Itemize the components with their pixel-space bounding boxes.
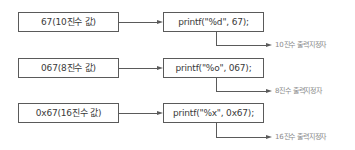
decimal-code: printf("%d", 67);	[178, 17, 249, 27]
arrow-right-icon	[266, 43, 272, 47]
hex-value-box: 0x67(16진수 값)	[18, 103, 119, 123]
decimal-value-label: 67(10진수 값)	[41, 17, 96, 27]
hex-connector-line	[119, 113, 157, 114]
octal-value-box: 067(8진수 값)	[18, 58, 119, 78]
decimal-specifier-note: 10진수 출력지정자	[275, 41, 326, 50]
octal-note-drop-line	[216, 78, 217, 92]
decimal-value-box: 67(10진수 값)	[18, 12, 119, 32]
decimal-connector-line	[119, 22, 157, 23]
octal-note-line	[216, 91, 266, 92]
hex-code-box: printf("%x", 0x67);	[163, 103, 264, 123]
decimal-code-box: printf("%d", 67);	[163, 12, 264, 32]
decimal-note-drop-line	[216, 32, 217, 46]
arrow-right-icon	[266, 89, 272, 93]
octal-code: printf("%o", 067);	[175, 63, 251, 73]
octal-specifier-note: 8진수 출력지정자	[275, 87, 322, 96]
hex-value-label: 0x67(16진수 값)	[36, 108, 101, 118]
octal-connector-line	[119, 68, 157, 69]
octal-code-box: printf("%o", 067);	[163, 58, 264, 78]
hex-code: printf("%x", 0x67);	[173, 108, 254, 118]
arrow-right-icon	[266, 135, 272, 139]
hex-specifier-note: 16진수 출력지정자	[275, 133, 326, 142]
hex-note-line	[216, 137, 266, 138]
decimal-note-line	[216, 45, 266, 46]
hex-note-drop-line	[216, 123, 217, 137]
octal-value-label: 067(8진수 값)	[41, 63, 96, 73]
